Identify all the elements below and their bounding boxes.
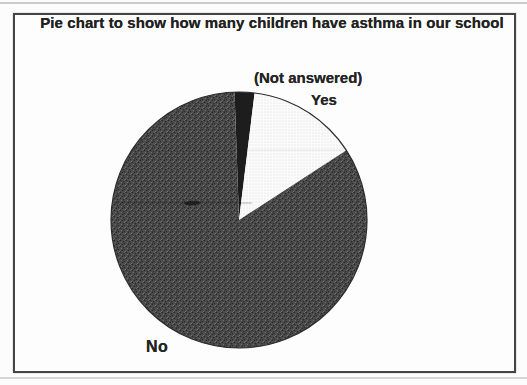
pie-slices <box>111 92 367 348</box>
slice-label-yes: Yes <box>311 92 337 107</box>
pie-chart <box>0 0 527 385</box>
slice-label-no: No <box>146 339 168 355</box>
slice-label-not-answered: (Not answered) <box>254 70 362 85</box>
